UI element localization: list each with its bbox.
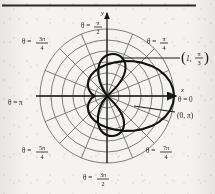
- angle-label-theta-5pi-4-prefix: θ =: [22, 147, 31, 155]
- angle-label-theta-3pi-2-num: 3π: [100, 171, 107, 178]
- angle-label-theta-3pi-2-den: 2: [101, 180, 104, 187]
- angle-label-theta-pi-2-num: π: [96, 19, 100, 26]
- angle-label-theta-pi: θ = π: [8, 99, 23, 107]
- angle-label-theta-7pi-4-num: 7π: [163, 144, 170, 151]
- point-label-den: 3: [197, 59, 200, 66]
- point-label-0-pi-text: (0, π): [177, 111, 194, 120]
- angle-label-theta-pi-text: θ = π: [8, 99, 23, 107]
- angle-label-theta-5pi-4: θ = 5π 4: [22, 144, 48, 160]
- polar-plot-figure: θ = 0 θ = π 4 θ = π 2 θ = 3π 4 θ = π: [0, 0, 215, 194]
- angle-label-theta-3pi-4-prefix: θ =: [22, 38, 31, 46]
- angle-label-theta-7pi-4-prefix: θ =: [146, 147, 155, 155]
- angle-label-theta-0: θ = 0: [178, 96, 193, 104]
- y-axis-label: y: [100, 9, 104, 16]
- angle-label-theta-7pi-4-den: 4: [164, 153, 167, 160]
- point-label-close-paren: ): [204, 49, 209, 66]
- angle-label-theta-5pi-4-num: 5π: [39, 144, 46, 151]
- angle-label-theta-pi-4-prefix: θ =: [147, 38, 156, 46]
- angle-label-theta-pi-2-den: 2: [96, 28, 99, 35]
- angle-label-theta-pi-2-prefix: θ =: [81, 22, 90, 30]
- angle-label-theta-7pi-4: θ = 7π 4: [146, 144, 172, 160]
- angle-label-theta-3pi-4: θ = 3π 4: [22, 35, 48, 51]
- angle-label-theta-pi-4-num: π: [162, 35, 166, 42]
- x-axis-label: x: [180, 86, 184, 93]
- point-label-r-value: 1,: [186, 54, 192, 63]
- angle-label-theta-3pi-2-prefix: θ =: [83, 174, 92, 182]
- point-label-num: π: [197, 50, 201, 57]
- angle-label-theta-pi-4: θ = π 4: [147, 35, 168, 51]
- point-label-0-pi: (0, π): [177, 111, 194, 120]
- angle-label-theta-5pi-4-den: 4: [40, 153, 43, 160]
- angle-label-theta-pi-4-den: 4: [162, 44, 165, 51]
- angle-label-theta-3pi-2: θ = 3π 2: [83, 171, 109, 187]
- leader-point-0-pi: [134, 106, 175, 112]
- angle-label-theta-3pi-4-den: 4: [40, 44, 43, 51]
- angle-label-theta-0-text: θ = 0: [178, 96, 193, 104]
- polar-plot-svg: θ = 0 θ = π 4 θ = π 2 θ = 3π 4 θ = π: [0, 0, 215, 194]
- angle-label-theta-3pi-4-num: 3π: [39, 35, 46, 42]
- point-label-1-pi-3: ( 1, π 3 ): [181, 49, 209, 66]
